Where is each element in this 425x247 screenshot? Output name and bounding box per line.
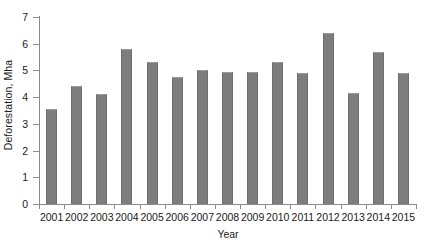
bar <box>272 62 283 204</box>
y-tick-label: 5 <box>0 65 28 76</box>
plot-area <box>39 17 416 204</box>
x-tick-mark <box>341 205 342 209</box>
x-tick-mark <box>89 205 90 209</box>
bar <box>121 49 132 204</box>
x-tick-mark <box>165 205 166 209</box>
bar <box>323 33 334 204</box>
bar <box>247 72 258 204</box>
bar <box>71 86 82 204</box>
deforestation-bar-chart: Deforestation, Mha 01234567 200120022003… <box>0 0 425 247</box>
bar <box>398 73 409 204</box>
x-axis-title: Year <box>39 228 417 240</box>
x-tick-mark <box>240 205 241 209</box>
x-tick-mark <box>315 205 316 209</box>
x-tick-mark <box>265 205 266 209</box>
x-tick-mark <box>190 205 191 209</box>
x-tick-mark <box>391 205 392 209</box>
x-tick-mark <box>64 205 65 209</box>
bar <box>348 93 359 204</box>
x-tick-mark <box>416 205 417 209</box>
bar <box>297 73 308 204</box>
x-tick-mark <box>114 205 115 209</box>
y-tick-label: 3 <box>0 119 28 130</box>
x-tick-mark <box>290 205 291 209</box>
x-tick-mark <box>140 205 141 209</box>
x-tick-mark <box>39 205 40 209</box>
x-tick-mark <box>215 205 216 209</box>
y-tick-label: 2 <box>0 146 28 157</box>
bar <box>96 94 107 204</box>
y-tick-label: 4 <box>0 92 28 103</box>
bar <box>172 77 183 204</box>
x-axis-line <box>39 204 417 205</box>
y-tick-label: 6 <box>0 39 28 50</box>
bar <box>197 70 208 204</box>
y-tick-label: 1 <box>0 172 28 183</box>
bar <box>373 52 384 204</box>
bar <box>147 62 158 204</box>
x-tick-label: 2015 <box>383 212 423 223</box>
bar <box>222 72 233 204</box>
y-tick-label: 7 <box>0 12 28 23</box>
bar <box>46 109 57 204</box>
x-tick-mark <box>366 205 367 209</box>
y-tick-label: 0 <box>0 199 28 210</box>
